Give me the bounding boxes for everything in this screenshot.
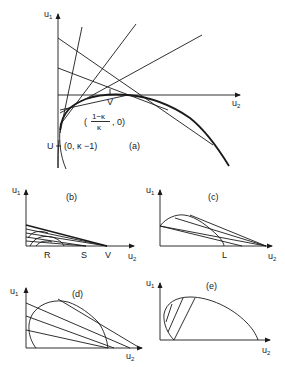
tangent-line-4: [58, 38, 213, 145]
point-r-label: R: [44, 250, 51, 260]
u2-axis-label: u2: [126, 351, 135, 362]
panel-a: u1 u2 V ( 1−κ κ , 0) U (0, κ −1) (a): [44, 9, 241, 169]
line-d-2: [26, 316, 114, 348]
line-c-4: [190, 215, 266, 246]
panel-b: u1 u2 (b) R S V: [12, 185, 137, 262]
tangent-line-d: [58, 299, 140, 348]
point-u-label: U: [47, 141, 54, 151]
chord-e-1: [174, 298, 195, 340]
figure: u1 u2 V ( 1−κ κ , 0) U (0, κ −1) (a): [0, 0, 285, 367]
panel-d-label: (d): [72, 289, 83, 299]
panel-c: u1 u2 (c) L: [146, 185, 277, 262]
u2-axis-label: u2: [262, 345, 271, 356]
u2-axis-label: u2: [268, 251, 277, 262]
svg-text:1−κ: 1−κ: [92, 112, 106, 121]
svg-text:(: (: [84, 117, 87, 127]
line-c-2: [160, 226, 242, 246]
point-v-label: V: [107, 97, 113, 107]
u2-axis-label: u2: [232, 98, 241, 109]
panel-c-label: (c): [208, 192, 219, 202]
u1-axis-label: u1: [12, 185, 21, 196]
point-l-label: L: [222, 250, 227, 260]
u1-axis-label: u1: [146, 185, 155, 196]
tangent-line-1: [60, 27, 82, 133]
svg-text:, 0): , 0): [112, 117, 125, 127]
u1-axis-label: u1: [44, 9, 53, 20]
u2-axis-label: u2: [128, 251, 137, 262]
curve-e: [164, 297, 258, 340]
point-v-label: V: [105, 250, 111, 260]
line-c-1: [160, 226, 266, 246]
panel-d: u1 u2 (d): [10, 286, 142, 362]
panel-a-label: (a): [129, 141, 140, 151]
panel-e: u1 u2 (e): [146, 278, 271, 356]
tangent-line-3: [60, 35, 202, 113]
u1-axis-label: u1: [10, 286, 19, 297]
point-u-coordinate: (0, κ −1): [64, 141, 97, 151]
curve-d: [29, 301, 108, 348]
panel-e-label: (e): [206, 281, 217, 291]
u1-axis-label: u1: [146, 278, 155, 289]
panel-b-label: (b): [66, 192, 77, 202]
envelope-curve: [60, 94, 229, 166]
point-s-label: S: [81, 250, 87, 260]
svg-text:κ: κ: [97, 123, 102, 132]
tangent-line-2: [60, 24, 136, 125]
line-c-3: [175, 218, 266, 246]
point-v-coordinate: ( 1−κ κ , 0): [84, 112, 125, 132]
